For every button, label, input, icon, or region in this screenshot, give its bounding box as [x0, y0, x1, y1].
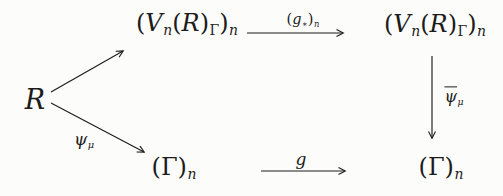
close-paren: ) — [308, 11, 314, 27]
var-R: R — [25, 84, 45, 115]
var-V: V — [145, 9, 162, 37]
open-paren: ( — [420, 10, 429, 38]
var-psi: ψ — [74, 129, 87, 149]
open-paren: ( — [419, 153, 428, 181]
sub-gamma: Γ — [210, 23, 220, 39]
open-paren: ( — [172, 9, 181, 37]
close-paren: ) — [467, 10, 476, 38]
sub-n: n — [187, 167, 196, 183]
node-source-R: R — [25, 86, 45, 113]
sub-mu: μ — [458, 96, 464, 107]
label-g-star-n: (g∗)n — [287, 12, 320, 28]
close-paren: ) — [219, 9, 228, 37]
close-paren: ) — [178, 153, 187, 181]
var-gamma: Γ — [161, 153, 178, 181]
sub-n: n — [411, 24, 420, 40]
node-top-right-VnRGamma: (Vn(R)Γ)n — [384, 12, 486, 39]
var-g: g — [292, 11, 301, 27]
sub-mu: μ — [88, 139, 94, 150]
sub-n: n — [477, 24, 486, 40]
sub-n: n — [229, 23, 238, 39]
close-paren: ) — [448, 10, 457, 38]
commutative-diagram: R (Vn(R)Γ)n (Vn(R)Γ)n (Γ)n (Γ)n (g∗)n g … — [0, 0, 503, 196]
arrow-r-to-bottom-left — [51, 103, 144, 152]
label-psi-bar-mu: ψμ — [444, 89, 463, 106]
var-R: R — [430, 10, 448, 38]
var-psi-bar: ψ — [444, 87, 457, 106]
open-paren: ( — [136, 9, 145, 37]
var-gamma: Γ — [428, 153, 445, 181]
label-psi-mu: ψμ — [74, 131, 94, 150]
open-paren: ( — [152, 153, 161, 181]
node-bottom-left-Gamma-n: (Γ)n — [152, 155, 197, 182]
open-paren: ( — [384, 10, 393, 38]
arrow-r-to-top-left — [51, 51, 123, 92]
close-paren: ) — [445, 153, 454, 181]
var-g: g — [296, 149, 307, 169]
label-g: g — [296, 151, 307, 168]
node-bottom-right-Gamma-n: (Γ)n — [419, 155, 464, 182]
sub-gamma: Γ — [458, 24, 468, 40]
close-paren: ) — [200, 9, 209, 37]
var-R: R — [182, 9, 200, 37]
sub-n: n — [454, 167, 463, 183]
var-V: V — [393, 10, 410, 38]
node-top-left-VnRGamma: (Vn(R)Γ)n — [136, 11, 238, 38]
sub-n: n — [314, 19, 319, 29]
sub-n: n — [163, 23, 172, 39]
